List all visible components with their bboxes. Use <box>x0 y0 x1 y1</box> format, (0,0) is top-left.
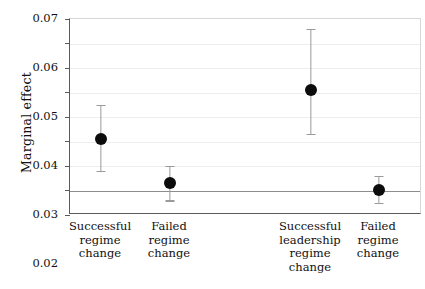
data-point <box>95 133 107 145</box>
y-axis-tick: 0.04 <box>65 92 70 93</box>
y-axis-tick-label: 0.03 <box>32 209 58 221</box>
marginal-effect-chart: Marginal effect 0.070.060.050.040.030.02… <box>0 0 425 289</box>
data-point <box>305 84 317 96</box>
y-axis-tick-label: 0.07 <box>32 13 58 25</box>
y-axis-tick: 0.03 <box>65 117 70 118</box>
y-axis-tick-label: 0.05 <box>32 111 58 123</box>
gridline <box>70 215 420 216</box>
error-bar-cap <box>166 200 175 201</box>
y-axis-tick: -0.01 <box>65 215 70 216</box>
gridline <box>70 166 420 167</box>
x-label-3: Failed regime change <box>330 220 425 261</box>
y-axis-tick: 0 <box>65 190 70 191</box>
y-axis-tick: 0.07 <box>65 19 70 20</box>
x-label-1: Failed regime change <box>121 220 217 261</box>
data-point <box>373 184 385 196</box>
gridline <box>70 19 420 20</box>
gridline <box>70 93 420 94</box>
gridline <box>70 117 420 118</box>
gridline <box>70 44 420 45</box>
zero-reference-line <box>70 191 420 192</box>
y-axis-tick-label: 0.04 <box>32 160 58 172</box>
plot-area: 0.070.060.050.040.030.020.010-0.01 <box>69 18 421 214</box>
y-axis-title: Marginal effect <box>19 43 34 203</box>
y-axis-tick: 0.02 <box>65 141 70 142</box>
y-axis-tick-label: 0.06 <box>32 62 58 74</box>
error-bar <box>310 29 311 134</box>
error-bar-cap <box>166 166 175 167</box>
error-bar-cap <box>97 105 106 106</box>
data-point <box>164 177 176 189</box>
gridline <box>70 142 420 143</box>
error-bar-cap <box>375 203 384 204</box>
y-axis-tick: 0.01 <box>65 166 70 167</box>
y-axis-tick: 0.05 <box>65 68 70 69</box>
y-axis-tick: 0.06 <box>65 43 70 44</box>
gridline <box>70 68 420 69</box>
error-bar-cap <box>97 171 106 172</box>
error-bar-cap <box>307 134 316 135</box>
error-bar-cap <box>307 29 316 30</box>
error-bar-cap <box>375 176 384 177</box>
